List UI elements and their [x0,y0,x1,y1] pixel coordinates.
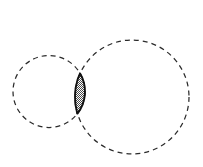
two-circle-intersection-diagram [0,0,203,167]
figure-canvas [0,0,203,167]
figure-background [0,0,203,167]
